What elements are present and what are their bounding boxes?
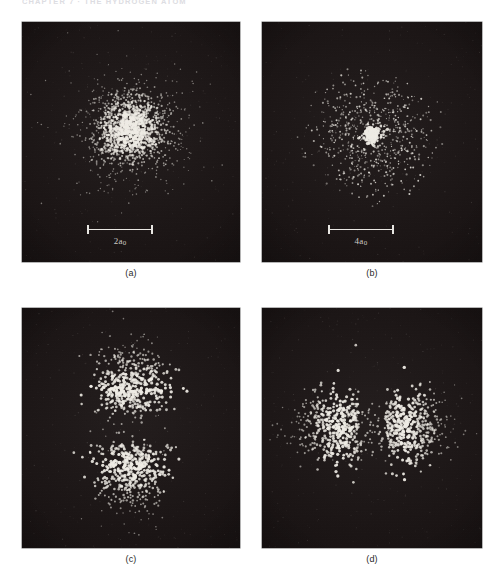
panel-d-image xyxy=(262,308,482,548)
panel-a-scatter xyxy=(22,22,240,262)
panel-d-caption: (d) xyxy=(262,554,482,564)
panel-b-cell: 4a0 xyxy=(262,22,482,262)
panel-c-scatter xyxy=(22,308,240,548)
panel-a-image: 2a0 xyxy=(22,22,240,262)
panel-a-caption: (a) xyxy=(22,268,240,278)
panel-c-caption: (c) xyxy=(22,554,240,564)
panel-b-image: 4a0 xyxy=(262,22,482,262)
panel-a-cell: 2a0 xyxy=(22,22,240,262)
panel-c-image xyxy=(22,308,240,548)
panel-d-scatter xyxy=(262,308,482,548)
panel-b-scatter xyxy=(262,22,482,262)
panel-b-caption: (b) xyxy=(262,268,482,278)
panel-d-cell xyxy=(262,308,482,548)
figure-container: 2a0 (a) 4a0 (b) (c) xyxy=(0,0,504,585)
panel-c-cell xyxy=(22,308,240,548)
